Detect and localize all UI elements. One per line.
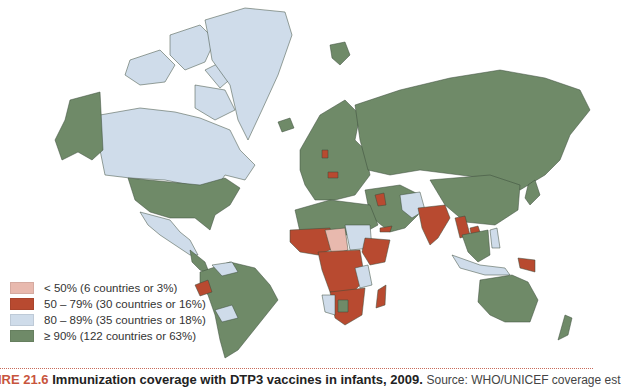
legend-label: ≥ 90% (122 countries or 63%) bbox=[44, 328, 196, 344]
figure-label: IRE 21.6 bbox=[0, 372, 49, 387]
region-denmark bbox=[322, 150, 328, 158]
caption-divider bbox=[0, 368, 593, 369]
swatch-gte90 bbox=[10, 330, 34, 342]
region-mexico bbox=[140, 212, 198, 255]
region-png bbox=[518, 258, 535, 272]
legend-item-gte90: ≥ 90% (122 countries or 63%) bbox=[10, 328, 206, 344]
region-ethiopia-somalia bbox=[362, 238, 390, 265]
region-south-america bbox=[200, 262, 278, 358]
figure-title: Immunization coverage with DTP3 vaccines… bbox=[52, 372, 423, 387]
region-usa bbox=[128, 178, 240, 230]
region-yemen bbox=[380, 226, 392, 232]
swatch-lt50 bbox=[10, 282, 34, 294]
legend-label: 80 – 89% (35 countries or 18%) bbox=[44, 312, 206, 328]
figure-caption: IRE 21.6 Immunization coverage with DTP3… bbox=[0, 372, 621, 387]
region-australia bbox=[478, 275, 538, 322]
region-se-asia bbox=[462, 230, 490, 262]
map-legend: < 50% (6 countries or 3%) 50 – 79% (30 c… bbox=[10, 280, 206, 344]
swatch-80-89 bbox=[10, 314, 34, 326]
legend-label: < 50% (6 countries or 3%) bbox=[44, 280, 177, 296]
region-iceland bbox=[278, 118, 294, 132]
legend-item-80-89: 80 – 89% (35 countries or 18%) bbox=[10, 312, 206, 328]
region-philippines bbox=[490, 228, 500, 248]
region-botswana bbox=[338, 300, 348, 312]
swatch-50-79 bbox=[10, 298, 34, 310]
legend-label: 50 – 79% (30 countries or 16%) bbox=[44, 296, 206, 312]
region-austria bbox=[328, 172, 338, 178]
region-namibia bbox=[322, 295, 335, 315]
region-russia bbox=[355, 70, 590, 190]
legend-item-lt50: < 50% (6 countries or 3%) bbox=[10, 280, 206, 296]
region-india bbox=[418, 205, 450, 245]
region-madagascar bbox=[376, 285, 386, 308]
figure-source: Source: WHO/UNICEF coverage est bbox=[426, 373, 620, 387]
region-svalbard bbox=[330, 42, 350, 65]
region-new-zealand bbox=[558, 315, 572, 340]
region-alaska bbox=[55, 92, 103, 160]
legend-item-50-79: 50 – 79% (30 countries or 16%) bbox=[10, 296, 206, 312]
